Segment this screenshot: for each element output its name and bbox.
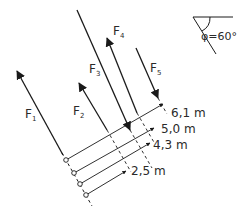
- svg-text:F5: F5: [150, 61, 161, 77]
- angle-label: φ=60°: [201, 30, 237, 43]
- force-f2: F2: [73, 83, 107, 130]
- svg-text:F3: F3: [89, 62, 100, 78]
- start-point-circle: [84, 193, 89, 198]
- force-f3: F3: [77, 10, 130, 130]
- start-point-circle: [72, 171, 77, 176]
- start-point-circle: [64, 158, 69, 163]
- svg-text:F4: F4: [113, 24, 125, 40]
- svg-text:5,0 m: 5,0 m: [161, 122, 196, 136]
- svg-text:F2: F2: [73, 104, 84, 120]
- angle-indicator: φ=60°: [193, 17, 237, 54]
- force-f4: F4: [107, 24, 137, 113]
- force-f5: F5: [136, 48, 161, 98]
- distance-2-5: 2,5 m: [86, 164, 166, 195]
- force-f1: F1: [17, 71, 63, 155]
- svg-text:4,3 m: 4,3 m: [153, 138, 188, 152]
- svg-text:F1: F1: [25, 107, 36, 123]
- angle-arc-icon: [202, 17, 210, 31]
- svg-text:2,5 m: 2,5 m: [131, 164, 166, 178]
- force-diagram: φ=60° F1 F2 F3 F4 F5 6,1 m 5,0 m 4,3 m: [0, 0, 241, 216]
- svg-text:6,1 m: 6,1 m: [171, 106, 206, 120]
- start-point-circle: [78, 182, 83, 187]
